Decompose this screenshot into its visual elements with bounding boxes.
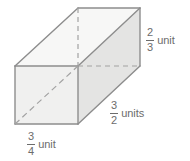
unit-word-depth: units — [121, 108, 144, 119]
fraction-denominator: 2 — [110, 115, 118, 127]
prism-figure: 2 3 unit 3 2 units 3 4 unit — [0, 0, 190, 161]
dimension-label-width: 3 4 unit — [27, 131, 56, 157]
fraction-denominator: 4 — [27, 146, 35, 158]
fraction-denominator: 3 — [146, 42, 154, 54]
dimension-label-depth: 3 2 units — [110, 100, 144, 126]
dimension-label-height: 2 3 unit — [146, 27, 175, 53]
unit-word-height: unit — [157, 35, 175, 46]
fraction-two-thirds: 2 3 — [146, 27, 154, 53]
unit-word-width: unit — [38, 139, 56, 150]
fraction-numerator: 2 — [146, 27, 154, 39]
fraction-numerator: 3 — [27, 131, 35, 143]
fraction-numerator: 3 — [110, 100, 118, 112]
fraction-three-fourths: 3 4 — [27, 131, 35, 157]
fraction-three-halves: 3 2 — [110, 100, 118, 126]
